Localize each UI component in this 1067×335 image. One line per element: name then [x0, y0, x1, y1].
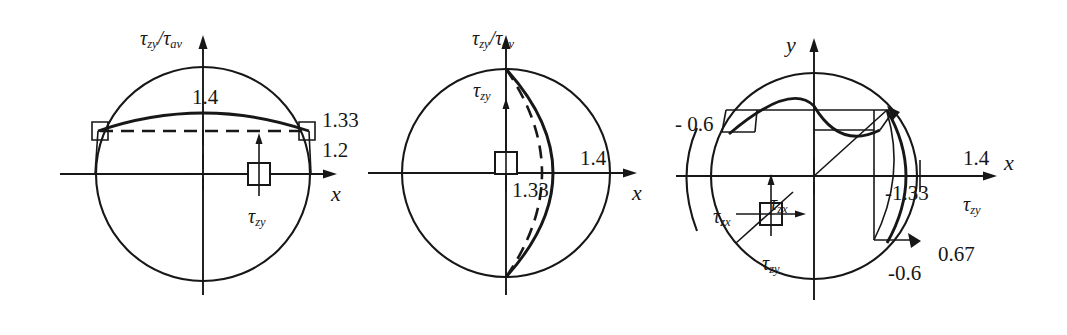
panel-1-value-peak: 1.4 — [192, 85, 219, 109]
panel-2: τzy/τav τzy x 1.4 1.33 — [368, 27, 642, 295]
panel-1-x-axis-label: x — [330, 181, 341, 206]
panel-2-value-solid: 1.4 — [580, 146, 607, 170]
panel-3-top-left-leader — [722, 110, 726, 132]
panel-3: y x τzx τzx τzy τzy - 0.6 -1.33 1.4 0.67… — [675, 32, 1014, 300]
panel-3-value-inner-right: -1.33 — [885, 181, 929, 205]
panel-1-x-axis-arrowhead — [323, 170, 337, 179]
panel-3-y-axis-label: y — [784, 32, 796, 57]
panel-2-stress-element-arrowhead — [503, 98, 510, 109]
stress-distribution-figure: τzy/τav x 1.4 1.33 1.2 τzy τzy/τav τzy x… — [0, 0, 1067, 335]
panel-1-element-label: τzy — [248, 205, 266, 229]
panel-3-value-right-outer: 1.4 — [963, 146, 990, 170]
panel-3-value-lower-center: -0.6 — [888, 261, 921, 285]
panel-2-vertical-axis-label: τzy/τav — [472, 27, 515, 51]
panel-3-tau-zy-element-label: τzy — [762, 252, 780, 276]
panel-3-value-lower-right: 0.67 — [938, 242, 975, 266]
panel-2-x-axis-arrowhead — [623, 169, 637, 178]
panel-1-value-edge-lower: 1.2 — [322, 138, 348, 162]
panel-3-x-axis-arrowhead — [983, 172, 997, 181]
panel-2-x-axis-label: x — [631, 180, 642, 205]
panel-3-y-axis-arrowhead — [810, 38, 819, 52]
panel-3-element-horizontal-arrowhead — [795, 211, 806, 218]
panel-3-value-left-upper: - 0.6 — [675, 112, 714, 136]
panel-2-value-dashed: 1.33 — [512, 178, 549, 202]
panel-2-element-label: τzy — [473, 79, 491, 103]
panel-3-tau-zx-top-label: τzx — [770, 192, 788, 216]
panel-3-tau-zx-left-arc — [687, 128, 698, 231]
panel-3-lower-right-arrow — [908, 233, 921, 248]
panel-3-tau-zy-right-label: τzy — [963, 193, 981, 217]
panel-1-vertical-axis-label: τzy/τav — [140, 27, 183, 51]
panel-1-vertical-axis-arrowhead — [199, 35, 208, 49]
panel-1-stress-element-arrowhead — [256, 133, 263, 144]
panel-3-tau-zx-element-label: τzx — [713, 205, 731, 229]
panel-3-x-axis-label: x — [1003, 150, 1014, 175]
panel-1-value-edge-upper: 1.33 — [322, 108, 359, 132]
panel-1: τzy/τav x 1.4 1.33 1.2 τzy — [60, 27, 359, 295]
panel-3-element-resultant-line — [736, 192, 793, 243]
